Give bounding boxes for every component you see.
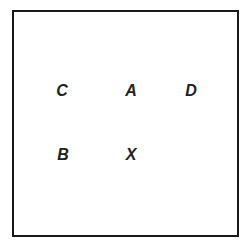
label-x: X bbox=[126, 147, 137, 163]
diagram-frame bbox=[12, 10, 239, 237]
label-a: A bbox=[125, 83, 137, 99]
label-c: C bbox=[56, 83, 68, 99]
label-b: B bbox=[57, 147, 69, 163]
label-d: D bbox=[185, 83, 197, 99]
